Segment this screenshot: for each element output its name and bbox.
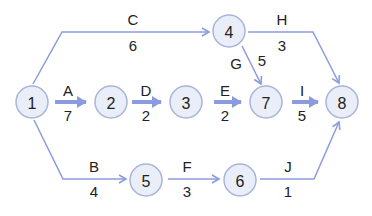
edge-f: F 3: [168, 158, 219, 200]
edge-h: H 3: [248, 11, 339, 83]
node-4: 4: [213, 15, 245, 47]
node-8-label: 8: [338, 95, 347, 112]
edge-c-activity: C: [128, 11, 139, 28]
node-5: 5: [130, 164, 162, 196]
edge-f-activity: F: [182, 158, 191, 175]
edge-b-activity: B: [89, 158, 99, 175]
node-4-label: 4: [225, 24, 234, 41]
edge-h-activity: H: [277, 11, 288, 28]
edge-c: C 6: [33, 11, 209, 84]
node-7: 7: [250, 86, 282, 118]
node-8: 8: [326, 86, 358, 118]
node-6-label: 6: [236, 173, 245, 190]
edge-h-duration: 3: [278, 37, 286, 54]
edge-e-activity: E: [220, 82, 230, 99]
edge-d-activity: D: [141, 82, 152, 99]
edge-e-duration: 2: [221, 107, 229, 124]
edge-g-activity: G: [230, 55, 242, 72]
edge-c-duration: 6: [129, 37, 137, 54]
edge-i: I 5: [292, 82, 318, 124]
edge-b: B 4: [34, 120, 126, 200]
edge-j-activity: J: [284, 158, 292, 175]
node-1: 1: [16, 86, 48, 118]
edge-a-duration: 7: [64, 107, 72, 124]
edge-j-duration: 1: [284, 183, 292, 200]
edge-d: D 2: [132, 82, 161, 124]
node-3-label: 3: [182, 95, 191, 112]
edge-b-duration: 4: [90, 183, 98, 200]
edge-a-activity: A: [63, 82, 73, 99]
edge-j: J 1: [260, 122, 339, 200]
edge-f-duration: 3: [183, 183, 191, 200]
edge-a: A 7: [55, 82, 86, 124]
node-2: 2: [95, 86, 127, 118]
edge-e: E 2: [214, 82, 241, 124]
node-7-label: 7: [262, 95, 271, 112]
edge-g-duration: 5: [258, 52, 266, 69]
network-diagram: C 6 H 3 G 5 A 7 D 2 E 2 I 5 B 4: [0, 0, 372, 216]
node-1-label: 1: [28, 95, 37, 112]
node-6: 6: [224, 164, 256, 196]
edge-i-duration: 5: [298, 107, 306, 124]
edge-i-activity: I: [300, 82, 304, 99]
edge-g: G 5: [230, 46, 266, 84]
node-3: 3: [170, 86, 202, 118]
edge-d-duration: 2: [142, 107, 150, 124]
node-2-label: 2: [107, 95, 116, 112]
node-5-label: 5: [142, 173, 151, 190]
